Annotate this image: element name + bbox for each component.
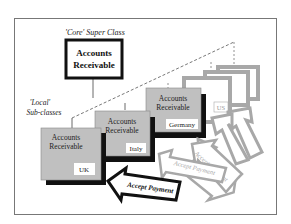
svg-text:US: US: [217, 104, 226, 111]
core-super-class-box: Accounts Receivable: [66, 40, 122, 78]
local-subclasses-label: 'Local': [30, 98, 51, 107]
svg-text:Germany: Germany: [169, 121, 196, 129]
subclass-box-uk: Accounts Receivable UK: [41, 128, 106, 185]
core-super-class-label: 'Core' Super Class: [65, 28, 125, 37]
svg-text:Accounts: Accounts: [76, 48, 112, 58]
svg-text:Receivable: Receivable: [156, 103, 190, 112]
svg-text:UK: UK: [79, 166, 89, 174]
svg-text:Accounts: Accounts: [159, 94, 187, 103]
svg-text:Accounts: Accounts: [52, 133, 80, 142]
class-hierarchy-diagram: France US Accounts Receivable Germany Ac…: [0, 0, 291, 224]
local-subclasses-label: Sub-classes: [27, 108, 62, 117]
svg-text:Italy: Italy: [130, 145, 143, 153]
svg-text:Receivable: Receivable: [49, 142, 83, 151]
svg-text:Receivable: Receivable: [105, 126, 139, 135]
svg-text:Accounts: Accounts: [108, 117, 136, 126]
svg-text:Receivable: Receivable: [73, 60, 114, 70]
